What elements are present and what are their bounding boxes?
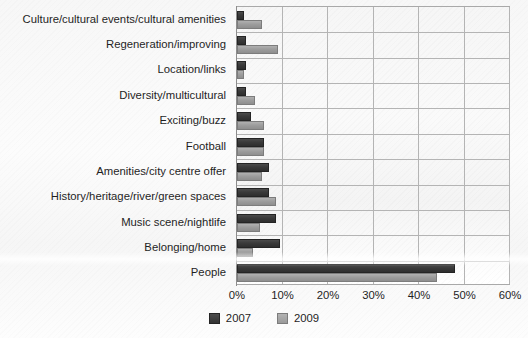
category-axis-labels: Culture/cultural events/cultural ameniti… (0, 6, 231, 285)
gridline-vertical (509, 7, 510, 284)
bar-2007-6 (237, 163, 269, 172)
legend-label: 2009 (294, 312, 319, 324)
bar-2009-1 (237, 45, 278, 54)
gridline-horizontal (237, 185, 509, 186)
bar-2009-7 (237, 197, 276, 206)
gridline-vertical (418, 7, 419, 284)
gridline-horizontal (237, 58, 509, 59)
gridline-vertical (373, 7, 374, 284)
x-axis-tick-label: 60% (480, 289, 528, 301)
category-label: Football (0, 140, 226, 152)
gridline-horizontal (237, 210, 509, 211)
bar-2007-0 (237, 11, 244, 20)
legend-label: 2007 (226, 312, 251, 324)
gridline-horizontal (237, 83, 509, 84)
bar-2007-8 (237, 214, 276, 223)
category-label: Regeneration/improving (0, 38, 226, 50)
gridline-horizontal (237, 32, 509, 33)
category-label: Amenities/city centre offer (0, 165, 226, 177)
category-label: History/heritage/river/green spaces (0, 190, 226, 202)
horizontal-bar-chart: Culture/cultural events/cultural ameniti… (0, 0, 528, 338)
bar-2009-8 (237, 223, 260, 232)
value-axis-tick-labels: 0%10%20%30%40%50%60% (0, 289, 528, 305)
legend-item-2009[interactable]: 2009 (277, 312, 319, 324)
category-label: Music scene/nightlife (0, 216, 226, 228)
bar-2009-9 (237, 248, 253, 257)
gridline-horizontal (237, 108, 509, 109)
bar-2009-4 (237, 121, 264, 130)
category-label: Culture/cultural events/cultural ameniti… (0, 13, 226, 25)
bar-2009-6 (237, 172, 262, 181)
chart-legend: 20072009 (0, 312, 528, 324)
bar-2009-3 (237, 96, 255, 105)
gridline-horizontal (237, 134, 509, 135)
bar-2007-9 (237, 239, 280, 248)
bar-2009-5 (237, 147, 264, 156)
bar-2007-10 (237, 264, 455, 273)
gridline-horizontal (237, 159, 509, 160)
gridline-vertical (282, 7, 283, 284)
plot-area (237, 6, 510, 285)
value-axis-line (236, 6, 237, 286)
bar-2007-3 (237, 87, 246, 96)
bar-2007-5 (237, 138, 264, 147)
category-label: Location/links (0, 63, 226, 75)
legend-swatch-2009 (277, 313, 288, 324)
legend-item-2007[interactable]: 2007 (209, 312, 251, 324)
gridline-horizontal (237, 235, 509, 236)
legend-swatch-2007 (209, 313, 220, 324)
bar-2007-7 (237, 188, 269, 197)
bar-2009-0 (237, 20, 262, 29)
bar-2007-4 (237, 112, 251, 121)
category-label: Belonging/home (0, 241, 226, 253)
bar-2007-2 (237, 61, 246, 70)
category-label: Exciting/buzz (0, 114, 226, 126)
bar-2009-2 (237, 70, 244, 79)
gridline-vertical (464, 7, 465, 284)
gridline-horizontal (237, 261, 509, 262)
bar-2009-10 (237, 273, 437, 282)
category-label: Diversity/multicultural (0, 89, 226, 101)
gridline-vertical (327, 7, 328, 284)
category-label: People (0, 266, 226, 278)
bar-2007-1 (237, 36, 246, 45)
